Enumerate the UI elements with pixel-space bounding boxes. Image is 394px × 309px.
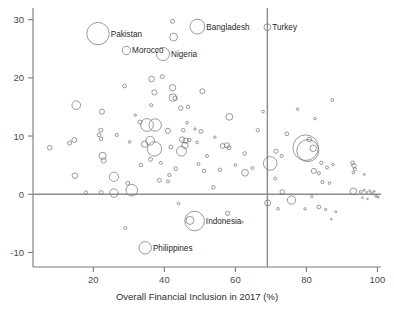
bubble-point [128,141,131,144]
y-tick-label: 20 [13,72,24,83]
bubble-point [321,180,324,183]
bubble-point [331,98,334,101]
bubble-point [366,192,368,194]
bubble-point [139,163,143,167]
bubble-point [124,226,127,229]
bubble-point [146,136,155,145]
bubble-point [206,154,209,157]
annotation-philippines: Philippines [153,244,193,253]
bubble-point [310,145,317,152]
bubble-point [174,167,178,171]
bubble-point [212,185,216,189]
bubble-point [149,119,161,131]
bubble-point [99,109,104,114]
bubble-point [101,158,106,163]
bubble-point [287,196,295,204]
bubble-point [251,167,254,170]
bubble-point [280,154,283,157]
bubble-point [304,208,306,210]
bubble-point [242,169,249,176]
bubble-point [335,211,337,213]
bubble-point [186,216,194,224]
bubble-point [149,76,155,82]
bubble-point [332,163,334,165]
bubble-point [226,211,230,215]
bubble-point [359,191,362,194]
bubble-indonesia [185,211,205,231]
bubble-point [362,197,364,199]
bubble-point [317,172,320,175]
bubble-point [311,195,313,197]
y-tick-label: 30 [13,14,24,25]
bubble-point [177,202,180,205]
bubble-point [169,145,173,149]
bubble-point [330,218,332,220]
bubble-point [165,128,170,133]
bubble-point [99,128,103,132]
bubble-point [149,157,153,161]
bubble-point [166,180,169,183]
annotation-pakistan: Pakistan [111,30,143,39]
bubble-point [99,137,103,141]
bubble-point [199,129,203,133]
bubble-point [256,129,259,132]
bubble-point [234,164,237,167]
bubble-point [274,149,278,153]
bubble-point [97,133,101,137]
axis-tick-labels: 204060801003020100-10 [10,14,385,285]
x-axis-title: Overall Financial Inclusion in 2017 (%) [116,291,278,302]
scatter-plot-canvas: 204060801003020100-10 PakistanMoroccoNig… [0,0,394,309]
bubble-point [314,117,317,120]
bubble-point [168,173,171,176]
bubble-point [72,173,78,179]
bubble-philippines [139,242,151,254]
bubble-point [150,104,153,107]
bubble-point [47,145,52,150]
bubble-point [352,171,355,174]
bubble-point [147,142,161,156]
bubble-point [159,161,162,164]
bubble-point [326,166,329,169]
y-tick-label: 10 [13,131,24,142]
bubble-point [109,172,118,181]
bubble-point [177,146,187,156]
bubble-point [263,157,277,171]
bubble-point [243,152,247,156]
bubble-morocco [122,46,130,54]
bubble-point [363,173,365,175]
bubble-point [134,114,136,116]
annotation-indonesia: Indonesia [206,217,242,226]
bubble-point [296,108,298,110]
bubble-point [293,135,319,161]
bubble-point [186,105,189,108]
x-tick-label: 80 [301,274,312,285]
bubble-point [311,168,316,173]
bubble-point [72,101,81,110]
reference-lines [33,8,381,267]
bubble-point [200,89,205,94]
bubble-chart-figure: 204060801003020100-10 PakistanMoroccoNig… [0,0,394,309]
bubble-point [160,75,164,79]
bubble-point [197,162,200,165]
bubble-bangladesh [190,19,205,34]
x-tick-label: 60 [230,274,241,285]
bubble-point [179,106,183,110]
bubble-point [280,190,285,195]
bubble-point [363,189,365,191]
annotation-bangladesh: Bangladesh [206,23,250,32]
bubble-point [274,177,277,180]
bubble-point [325,208,327,210]
bubble-pakistan [87,22,109,44]
bubble-point [328,182,331,185]
bubble-point [179,137,184,142]
bubble-point [141,141,147,147]
bubble-point [110,189,118,197]
bubble-point [369,190,371,192]
bubble-point [170,33,178,41]
bubble-point [152,90,157,95]
bubble-point [186,121,189,124]
bubble-point [262,110,265,113]
bubble-point [218,168,221,171]
bubble-point [68,141,72,145]
bubble-point [277,208,280,211]
